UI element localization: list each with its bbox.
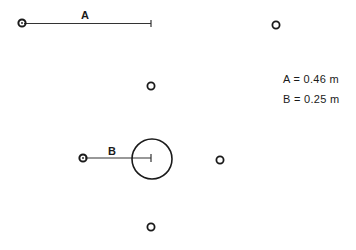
legend-a: A = 0.46 m — [283, 73, 339, 85]
origin-point-a-dot — [21, 22, 23, 24]
diagram-canvas — [0, 0, 356, 250]
legend-b: B = 0.25 m — [283, 93, 340, 105]
point-bottom — [147, 223, 154, 230]
origin-point-b-dot — [82, 157, 84, 159]
point-right — [216, 156, 223, 163]
point-middle — [147, 82, 154, 89]
label-b: B — [108, 145, 116, 157]
label-a: A — [81, 9, 89, 21]
point-top-right — [272, 21, 279, 28]
large-circle — [132, 139, 172, 179]
